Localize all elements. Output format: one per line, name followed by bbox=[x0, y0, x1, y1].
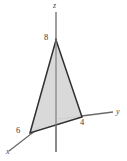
x-axis-label: x bbox=[6, 148, 10, 156]
x-intercept-label: 6 bbox=[16, 126, 20, 135]
y-axis-label: y bbox=[116, 108, 120, 116]
axes-plane-diagram bbox=[0, 0, 127, 161]
y-intercept-label: 4 bbox=[80, 118, 84, 127]
figure-container: z y x 8 4 6 bbox=[0, 0, 127, 161]
z-intercept-label: 8 bbox=[44, 33, 48, 42]
z-axis-label: z bbox=[53, 2, 56, 10]
